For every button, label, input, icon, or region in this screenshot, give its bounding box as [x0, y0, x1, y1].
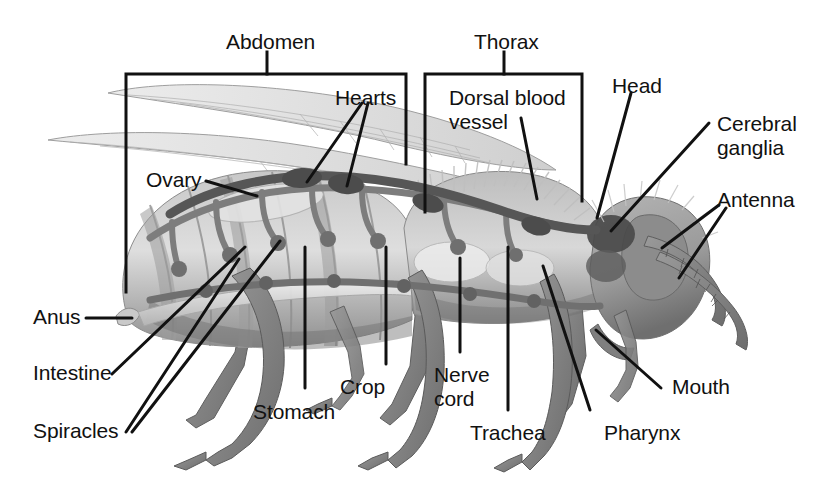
label-spiracles: Spiracles — [33, 419, 118, 442]
label-antenna: Antenna — [717, 188, 795, 211]
label-pharynx: Pharynx — [604, 421, 680, 444]
sub-ganglion-shape — [586, 250, 626, 282]
bracket-label-thorax: Thorax — [474, 30, 539, 53]
label-dorsal-blood-vessel: Dorsal blood vessel — [449, 86, 566, 134]
label-crop: Crop — [340, 375, 385, 398]
label-ovary: Ovary — [146, 168, 202, 191]
bee-illustration — [0, 0, 827, 490]
label-mouth: Mouth — [672, 375, 730, 398]
label-intestine: Intestine — [33, 361, 112, 384]
tarsus-mid — [358, 452, 388, 470]
label-stomach: Stomach — [253, 400, 335, 423]
label-anus: Anus — [33, 305, 80, 328]
label-hearts: Hearts — [335, 86, 396, 109]
label-head: Head — [612, 74, 662, 97]
tarsus-hind — [174, 452, 206, 470]
spiracle-1 — [171, 261, 187, 277]
spiracle-5 — [370, 233, 386, 249]
label-nerve-cord: Nerve cord — [434, 363, 490, 411]
bracket-label-abdomen: Abdomen — [226, 30, 315, 53]
tarsus-fore — [494, 454, 522, 472]
label-trachea: Trachea — [470, 421, 546, 444]
label-cerebral-ganglia: Cerebral ganglia — [717, 112, 797, 160]
bee-anatomy-diagram: AbdomenThoraxHeartsDorsal blood vesselHe… — [0, 0, 827, 490]
spiracle-6 — [450, 239, 466, 255]
spiracle-7 — [509, 248, 523, 262]
spiracle-4 — [320, 231, 336, 247]
